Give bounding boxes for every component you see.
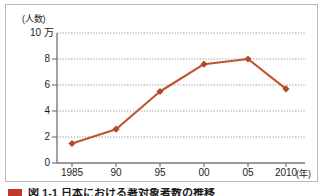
y-axis-ticks [52, 59, 57, 163]
data-series-line [72, 59, 286, 144]
figure-caption: 図 1-1 日本における著対象者数の推移 [0, 188, 325, 196]
chart-figure: (人数) 10 万 8 6 4 2 0 1985 90 95 00 05 201… [0, 0, 325, 196]
data-point-1985 [68, 140, 75, 147]
gridlines [57, 33, 305, 137]
chart-plot-area [0, 0, 325, 196]
caption-label: 図 1-1 日本における著対象者数の推移 [28, 188, 215, 196]
caption-marker-icon [8, 189, 22, 196]
